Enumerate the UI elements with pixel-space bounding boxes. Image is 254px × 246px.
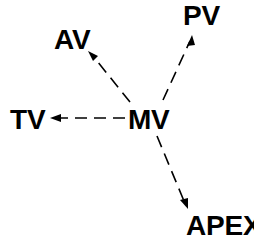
edge-mv-to-pv-line: [163, 41, 190, 100]
edge-mv-to-apex: [157, 136, 188, 209]
node-label-tv: TV: [10, 106, 45, 134]
edge-mv-to-tv-arrowhead: [50, 114, 61, 122]
edge-mv-to-av-line: [93, 56, 130, 102]
node-label-apex: APEX: [186, 212, 254, 240]
edge-mv-to-av: [88, 51, 130, 102]
edge-mv-to-tv: [50, 114, 125, 122]
node-label-mv: MV: [128, 106, 170, 134]
edge-mv-to-pv-arrowhead: [187, 35, 195, 46]
node-label-av: AV: [54, 26, 90, 54]
edge-mv-to-apex-line: [157, 136, 184, 201]
diagram-canvas: MV AV PV TV APEX: [0, 0, 254, 246]
node-label-pv: PV: [183, 2, 220, 30]
edge-mv-to-apex-arrowhead: [180, 198, 188, 209]
edge-mv-to-pv: [163, 35, 195, 100]
